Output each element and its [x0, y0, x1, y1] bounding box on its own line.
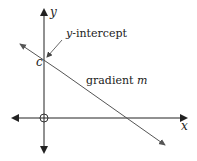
intercept-value-label: c: [36, 55, 43, 69]
y-intercept-label-text: -intercept: [72, 27, 127, 40]
x-axis-label: x: [181, 119, 188, 133]
y-axis-label: y: [49, 5, 57, 19]
gradient-label: gradient m: [86, 74, 147, 87]
gradient-label-symbol: m: [137, 74, 147, 87]
line-graph-diagram: y x c y-intercept gradient m: [0, 0, 197, 161]
intercept-pointer-arrow: [47, 40, 62, 57]
y-intercept-label: y-intercept: [65, 27, 127, 40]
gradient-label-text: gradient: [86, 74, 137, 87]
